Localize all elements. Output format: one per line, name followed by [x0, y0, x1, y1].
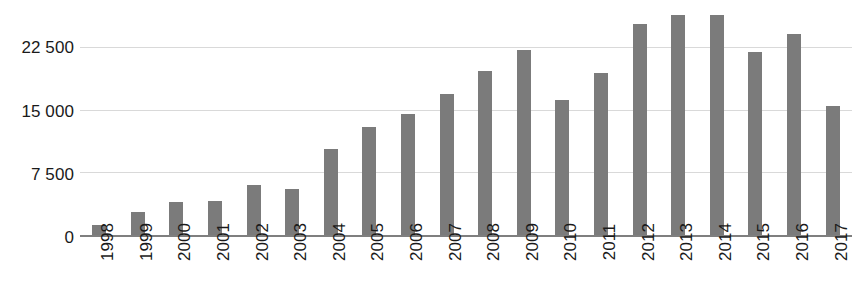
bar	[555, 100, 569, 236]
bar	[594, 73, 608, 236]
bar	[826, 106, 840, 236]
x-axis-tick: 2012	[620, 240, 659, 291]
bar-slot	[80, 10, 119, 236]
x-axis-tick-label: 2005	[369, 223, 386, 261]
x-axis-tick-label: 2015	[755, 223, 772, 261]
y-axis-tick-label: 0	[2, 229, 74, 246]
x-axis-tick-label: 2000	[176, 223, 193, 261]
bar	[787, 34, 801, 236]
bar	[362, 127, 376, 236]
bar-slot	[157, 10, 196, 236]
x-axis-tick-label: 2008	[485, 223, 502, 261]
x-axis-labels: 1998199920002001200220032004200520062007…	[80, 240, 852, 291]
category-axis-line	[80, 235, 852, 237]
bar-slot	[389, 10, 428, 236]
x-axis-tick-label: 2010	[562, 223, 579, 261]
bar	[478, 71, 492, 236]
x-axis-tick: 2004	[312, 240, 351, 291]
bar-slot	[119, 10, 158, 236]
bar-slot	[813, 10, 852, 236]
x-axis-tick: 2017	[813, 240, 852, 291]
x-axis-tick: 2003	[273, 240, 312, 291]
bar	[517, 50, 531, 236]
x-axis-tick: 2006	[389, 240, 428, 291]
bar-slot	[196, 10, 235, 236]
x-axis-tick: 1998	[80, 240, 119, 291]
bar-slot	[312, 10, 351, 236]
y-axis-labels: 22 500 15 000 7 500 0	[0, 0, 74, 291]
x-axis-tick: 2001	[196, 240, 235, 291]
x-axis-tick: 2014	[698, 240, 737, 291]
x-axis-tick: 2007	[427, 240, 466, 291]
x-axis-tick-label: 2012	[640, 223, 657, 261]
y-axis-tick-label: 22 500	[2, 39, 74, 56]
x-axis-tick: 2000	[157, 240, 196, 291]
bar-slot	[466, 10, 505, 236]
x-axis-tick: 2016	[775, 240, 814, 291]
bar-slot	[273, 10, 312, 236]
x-axis-tick-label: 2014	[717, 223, 734, 261]
bar-slot	[620, 10, 659, 236]
bar	[633, 24, 647, 237]
x-axis-tick: 2013	[659, 240, 698, 291]
x-axis-tick-label: 2006	[408, 223, 425, 261]
x-axis-tick: 2008	[466, 240, 505, 291]
y-axis-tick-label: 7 500	[2, 166, 74, 183]
x-axis-tick: 1999	[119, 240, 158, 291]
x-axis-tick-label: 2009	[524, 223, 541, 261]
bar	[748, 52, 762, 236]
bar-slot	[582, 10, 621, 236]
x-axis-tick-label: 2001	[215, 223, 232, 261]
x-axis-tick: 2005	[350, 240, 389, 291]
x-axis-tick: 2002	[234, 240, 273, 291]
bar	[710, 15, 724, 236]
y-axis-tick-label: 15 000	[2, 103, 74, 120]
bars-layer	[80, 10, 852, 236]
x-axis-tick-label: 1998	[99, 223, 116, 261]
plot-area	[80, 10, 852, 236]
x-axis-tick: 2015	[736, 240, 775, 291]
bar-slot	[350, 10, 389, 236]
x-axis-tick-label: 1999	[138, 223, 155, 261]
bar	[401, 114, 415, 236]
bar-slot	[736, 10, 775, 236]
bar	[440, 94, 454, 236]
x-axis-tick: 2009	[505, 240, 544, 291]
x-axis-tick-label: 2002	[254, 223, 271, 261]
x-axis-tick-label: 2003	[292, 223, 309, 261]
bar-slot	[543, 10, 582, 236]
bar-slot	[234, 10, 273, 236]
x-axis-tick: 2010	[543, 240, 582, 291]
bar-slot	[698, 10, 737, 236]
x-axis-tick-label: 2007	[447, 223, 464, 261]
bar-slot	[427, 10, 466, 236]
x-axis-tick-label: 2011	[601, 224, 618, 261]
bar-chart: 22 500 15 000 7 500 0 199819992000200120…	[0, 0, 859, 291]
x-axis-tick-label: 2017	[833, 223, 850, 261]
bar-slot	[659, 10, 698, 236]
bar	[671, 15, 685, 236]
x-axis-tick-label: 2013	[678, 223, 695, 261]
x-axis-tick-label: 2016	[794, 223, 811, 261]
bar-slot	[775, 10, 814, 236]
x-axis-tick: 2011	[582, 240, 621, 291]
x-axis-tick-label: 2004	[331, 223, 348, 261]
bar-slot	[505, 10, 544, 236]
